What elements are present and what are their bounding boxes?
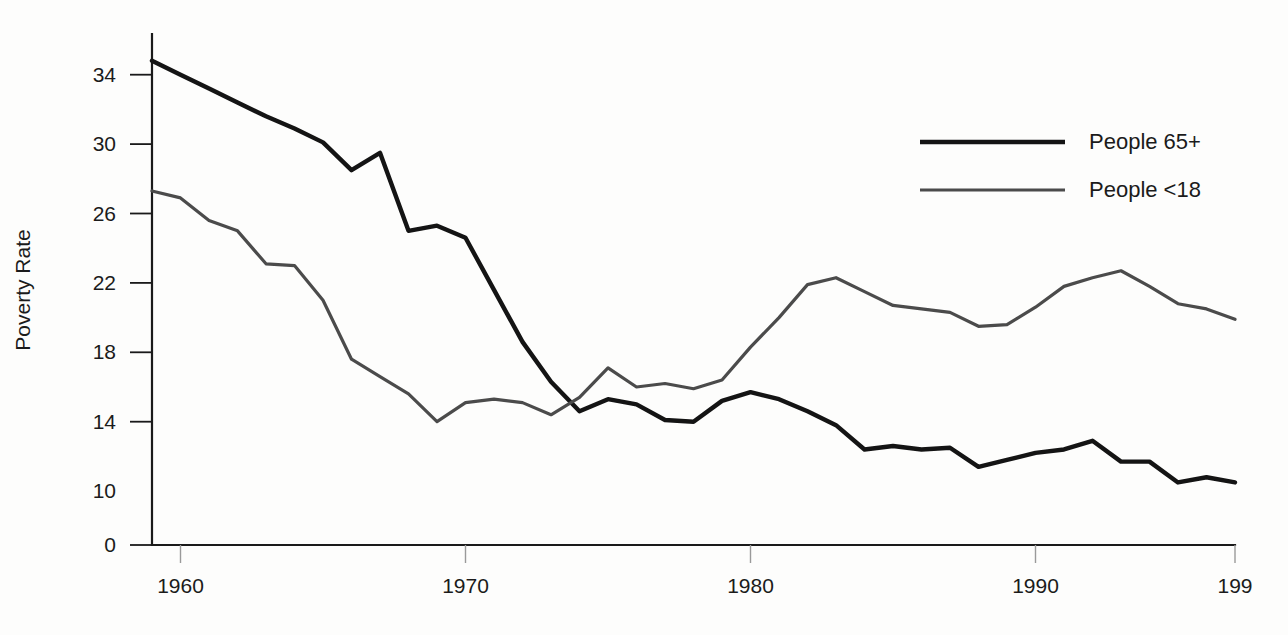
y-tick-label: 18 xyxy=(93,340,116,363)
series-line-people-65 xyxy=(152,61,1235,483)
y-tick-label: 0 xyxy=(104,533,116,556)
chart-container: 010141822263034 1960197019801990199 Pove… xyxy=(0,0,1288,635)
chart-legend: People 65+People <18 xyxy=(920,129,1201,202)
series-line-people-18 xyxy=(152,191,1235,422)
legend-label-1: People 65+ xyxy=(1089,129,1201,154)
y-axis-group: 010141822263034 xyxy=(93,34,152,556)
y-tick-label: 26 xyxy=(93,202,116,225)
y-tick-label: 34 xyxy=(93,63,117,86)
y-axis-ticks: 010141822263034 xyxy=(93,63,152,556)
x-tick-label: 1990 xyxy=(1012,574,1059,597)
x-tick-label: 199 xyxy=(1217,574,1252,597)
x-axis-group: 1960197019801990199 xyxy=(152,545,1253,597)
y-tick-label: 30 xyxy=(93,132,116,155)
x-tick-label: 1960 xyxy=(157,574,204,597)
x-tick-label: 1970 xyxy=(442,574,489,597)
x-tick-label: 1980 xyxy=(727,574,774,597)
poverty-rate-line-chart: 010141822263034 1960197019801990199 Pove… xyxy=(0,0,1288,635)
x-axis-ticks: 1960197019801990199 xyxy=(157,545,1252,597)
y-tick-label: 22 xyxy=(93,271,116,294)
y-tick-label: 10 xyxy=(93,479,116,502)
y-tick-label: 14 xyxy=(93,410,117,433)
y-axis-title: Poverty Rate xyxy=(11,229,34,350)
series-lines xyxy=(152,61,1235,483)
legend-label-2: People <18 xyxy=(1089,177,1201,202)
